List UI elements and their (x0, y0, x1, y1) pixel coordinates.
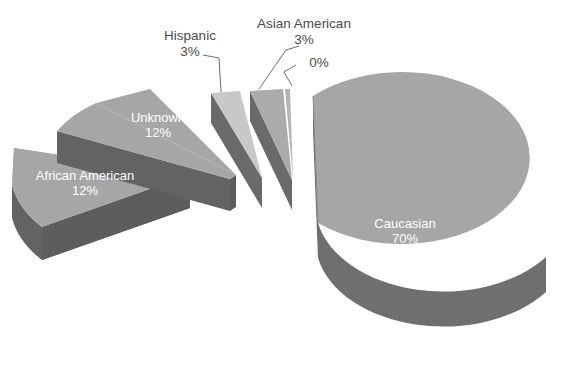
slice-label-caucasian-value: 70% (358, 231, 452, 246)
slice-label-african-american-name: African American (16, 168, 154, 183)
pie-slice-caucasian[interactable] (313, 72, 546, 327)
slice-label-unknown: Unknown 12% (110, 110, 206, 141)
slice-label-unknown-value: 12% (110, 125, 206, 140)
slice-label-african-american-value: 12% (16, 183, 154, 198)
pie-slice-unknown-side-right (230, 175, 236, 211)
slice-label-caucasian-name: Caucasian (358, 216, 452, 231)
slice-label-hispanic-value: 3% (148, 44, 232, 60)
slice-label-other: 0% (296, 55, 342, 71)
slice-label-hispanic: Hispanic 3% (148, 28, 232, 60)
slice-label-african-american: African American 12% (16, 168, 154, 199)
slice-label-asian-american-name: Asian American (248, 16, 360, 32)
slice-label-asian-american: Asian American 3% (248, 16, 360, 48)
leader-line-hispanic (203, 55, 221, 92)
leader-line-other (284, 65, 296, 86)
slice-label-hispanic-name: Hispanic (148, 28, 232, 44)
slice-label-asian-american-value: 3% (248, 32, 360, 48)
slice-label-unknown-name: Unknown (110, 110, 206, 125)
slice-label-other-value: 0% (296, 55, 342, 71)
leader-line-asian-american (259, 46, 299, 89)
pie-chart-figure: Hispanic 3% Asian American 3% 0% Unknown… (0, 0, 567, 392)
slice-label-caucasian: Caucasian 70% (358, 216, 452, 247)
